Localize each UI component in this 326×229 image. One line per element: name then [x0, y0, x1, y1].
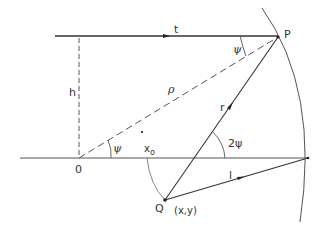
angle-psi-at-O-arc [108, 140, 111, 158]
line-r [165, 37, 278, 200]
x0-to-Q-arc [147, 158, 165, 200]
point-arc-axis [307, 157, 310, 160]
label-h: h [69, 87, 76, 98]
label-2psi: 2ψ [228, 138, 242, 149]
label-x0: xo [144, 144, 155, 154]
point-P [277, 36, 280, 39]
label-psi-top: ψ [233, 44, 242, 55]
line-l [165, 158, 308, 200]
dot-marker [141, 131, 143, 133]
label-l: l [229, 170, 232, 181]
label-x0-sub: o [150, 148, 155, 157]
label-rho: ρ [168, 84, 174, 95]
angle-2psi-arc [213, 132, 225, 158]
geometry-diagram [0, 0, 326, 229]
arrow-t-icon [163, 34, 170, 38]
label-O: 0 [75, 164, 82, 175]
label-psi-origin: ψ [113, 143, 122, 154]
label-Q: Q [155, 203, 164, 214]
label-Q-coords: (x,y) [174, 206, 197, 216]
arrow-l-icon [237, 177, 245, 181]
label-P: P [284, 29, 291, 40]
line-rho [79, 37, 278, 158]
label-t: t [174, 24, 178, 35]
label-r: r [220, 102, 225, 113]
